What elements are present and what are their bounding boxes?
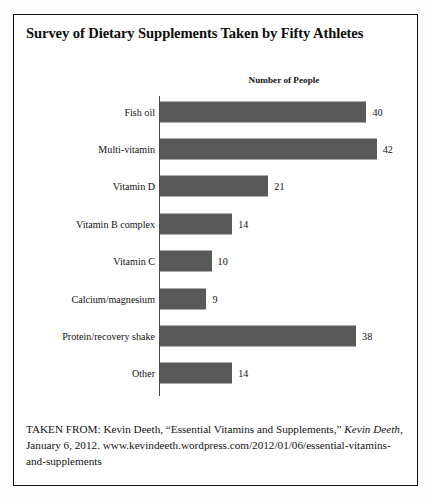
bar-value-label: 14 bbox=[238, 368, 248, 379]
bar bbox=[160, 101, 366, 122]
bar-container: 10 bbox=[160, 251, 228, 272]
bar-row: Vitamin D21 bbox=[14, 168, 419, 205]
bar-category-label: Vitamin C bbox=[113, 256, 155, 267]
bar-value-label: 9 bbox=[212, 293, 217, 304]
bar-row: Vitamin B complex14 bbox=[14, 205, 419, 242]
bar-row: Fish oil40 bbox=[14, 93, 419, 130]
bar-category-label: Vitamin B complex bbox=[76, 218, 155, 229]
bar-value-label: 40 bbox=[372, 106, 382, 117]
bar-category-label: Protein/recovery shake bbox=[62, 331, 155, 342]
bar-category-label: Multi-vitamin bbox=[98, 144, 155, 155]
axis-title: Number of People bbox=[159, 75, 409, 85]
bar bbox=[160, 326, 356, 347]
bar-category-label: Calcium/magnesium bbox=[71, 293, 155, 304]
bar-container: 9 bbox=[160, 288, 217, 309]
bar-category-label: Fish oil bbox=[124, 106, 155, 117]
bar bbox=[160, 251, 212, 272]
bar-value-label: 14 bbox=[238, 218, 248, 229]
source-caption: TAKEN FROM: Kevin Deeth, “Essential Vita… bbox=[26, 421, 406, 470]
bar-container: 40 bbox=[160, 101, 382, 122]
bar bbox=[160, 139, 377, 160]
bar-row: Vitamin C10 bbox=[14, 243, 419, 280]
bar-row: Multi-vitamin42 bbox=[14, 130, 419, 167]
bar-value-label: 38 bbox=[362, 331, 372, 342]
bar-value-label: 21 bbox=[274, 181, 284, 192]
bar-container: 14 bbox=[160, 363, 248, 384]
bar-value-label: 42 bbox=[383, 144, 393, 155]
caption-text-lead: TAKEN FROM: Kevin Deeth, “Essential Vita… bbox=[26, 423, 344, 435]
bar bbox=[160, 176, 268, 197]
page-title: Survey of Dietary Supplements Taken by F… bbox=[26, 25, 408, 42]
bar-row: Calcium/magnesium9 bbox=[14, 280, 419, 317]
bar-row: Other14 bbox=[14, 355, 419, 392]
bar-chart-plot-area: Fish oil40Multi-vitamin42Vitamin D21Vita… bbox=[14, 93, 419, 413]
bar-row: Protein/recovery shake38 bbox=[14, 317, 419, 354]
bar-container: 42 bbox=[160, 139, 393, 160]
caption-publication: Kevin Deeth bbox=[344, 423, 400, 435]
bar-value-label: 10 bbox=[218, 256, 228, 267]
bar-container: 38 bbox=[160, 326, 372, 347]
figure-frame: Survey of Dietary Supplements Taken by F… bbox=[13, 14, 418, 486]
bar-category-label: Other bbox=[132, 368, 155, 379]
bar-container: 14 bbox=[160, 213, 248, 234]
bar-category-label: Vitamin D bbox=[113, 181, 155, 192]
bar bbox=[160, 363, 232, 384]
bar-container: 21 bbox=[160, 176, 284, 197]
bar bbox=[160, 213, 232, 234]
bar bbox=[160, 288, 206, 309]
